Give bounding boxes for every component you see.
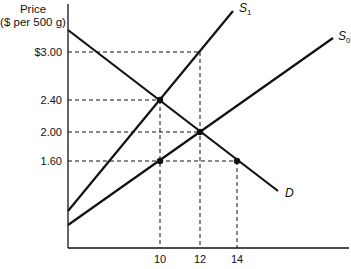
- reference-lines: [68, 52, 237, 248]
- point-14-1-60: [234, 158, 240, 164]
- point-10-1-60: [157, 158, 163, 164]
- demand-curve: [68, 30, 278, 191]
- point-12-2-00: [197, 129, 203, 135]
- plot-area: [0, 0, 351, 269]
- curve-label-d: D: [285, 186, 294, 200]
- curve-label-s0: S0: [338, 29, 350, 45]
- curve-label-s1: S1: [239, 1, 251, 17]
- supply-curve-s1: [68, 11, 233, 211]
- point-10-2-40: [157, 97, 163, 103]
